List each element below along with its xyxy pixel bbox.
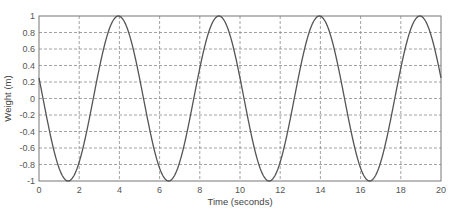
x-tick-label: 12 bbox=[275, 185, 285, 195]
x-tick-label: 2 bbox=[77, 185, 82, 195]
y-tick-label: 0 bbox=[30, 94, 35, 104]
y-tick-label: -0.6 bbox=[19, 143, 35, 153]
x-axis-ticks: 02468101214161820 bbox=[36, 185, 446, 195]
x-tick-label: 6 bbox=[157, 185, 162, 195]
line-chart: 02468101214161820 -1-0.8-0.6-0.4-0.200.2… bbox=[0, 0, 454, 217]
y-tick-label: -0.2 bbox=[19, 110, 35, 120]
x-tick-label: 10 bbox=[235, 185, 245, 195]
y-axis-ticks: -1-0.8-0.6-0.4-0.200.20.40.60.81 bbox=[19, 11, 35, 186]
x-tick-label: 14 bbox=[315, 185, 325, 195]
y-tick-label: -0.8 bbox=[19, 160, 35, 170]
y-tick-label: 0.4 bbox=[22, 61, 35, 71]
y-tick-label: -1 bbox=[27, 176, 35, 186]
y-axis-label: Weight (m) bbox=[2, 75, 13, 121]
y-tick-label: 0.6 bbox=[22, 44, 35, 54]
x-axis-label: Time (seconds) bbox=[207, 196, 272, 207]
grid-lines bbox=[39, 16, 441, 181]
x-tick-label: 18 bbox=[396, 185, 406, 195]
y-tick-label: 1 bbox=[30, 11, 35, 21]
x-tick-label: 8 bbox=[197, 185, 202, 195]
x-tick-label: 0 bbox=[36, 185, 41, 195]
x-tick-label: 20 bbox=[436, 185, 446, 195]
y-tick-label: 0.2 bbox=[22, 77, 35, 87]
x-tick-label: 4 bbox=[117, 185, 122, 195]
y-tick-label: 0.8 bbox=[22, 28, 35, 38]
x-tick-label: 16 bbox=[356, 185, 366, 195]
y-tick-label: -0.4 bbox=[19, 127, 35, 137]
